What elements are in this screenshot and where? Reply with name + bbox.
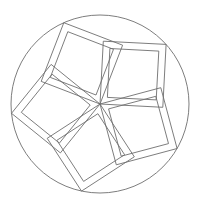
inner-square (107, 49, 158, 100)
square-frame (12, 64, 101, 152)
square-frame (47, 104, 134, 191)
pinwheel-diagram (0, 0, 199, 204)
outer-square (47, 104, 134, 191)
square-frame (41, 23, 122, 104)
inner-square (57, 114, 125, 182)
outer-square (41, 23, 122, 104)
